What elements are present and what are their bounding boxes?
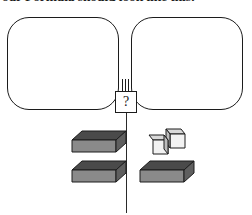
slab-icon <box>71 130 127 156</box>
slab-right-bottom[interactable] <box>139 160 195 186</box>
unknown-value-box[interactable]: ? <box>115 91 137 113</box>
slab-icon <box>139 160 195 186</box>
cube-icon <box>144 128 186 156</box>
header-text-clip: our Formula should look like this: <box>0 0 252 11</box>
cube-pair[interactable] <box>144 128 186 156</box>
page-title: our Formula should look like this: <box>2 0 252 5</box>
right-pan[interactable] <box>131 17 243 110</box>
slab-left-bottom[interactable] <box>71 160 127 186</box>
slab-icon <box>71 160 127 186</box>
left-pan[interactable] <box>7 17 119 110</box>
slab-left-top[interactable] <box>71 130 127 156</box>
balance-scale-diagram: our Formula should look like this: ? <box>0 0 252 215</box>
